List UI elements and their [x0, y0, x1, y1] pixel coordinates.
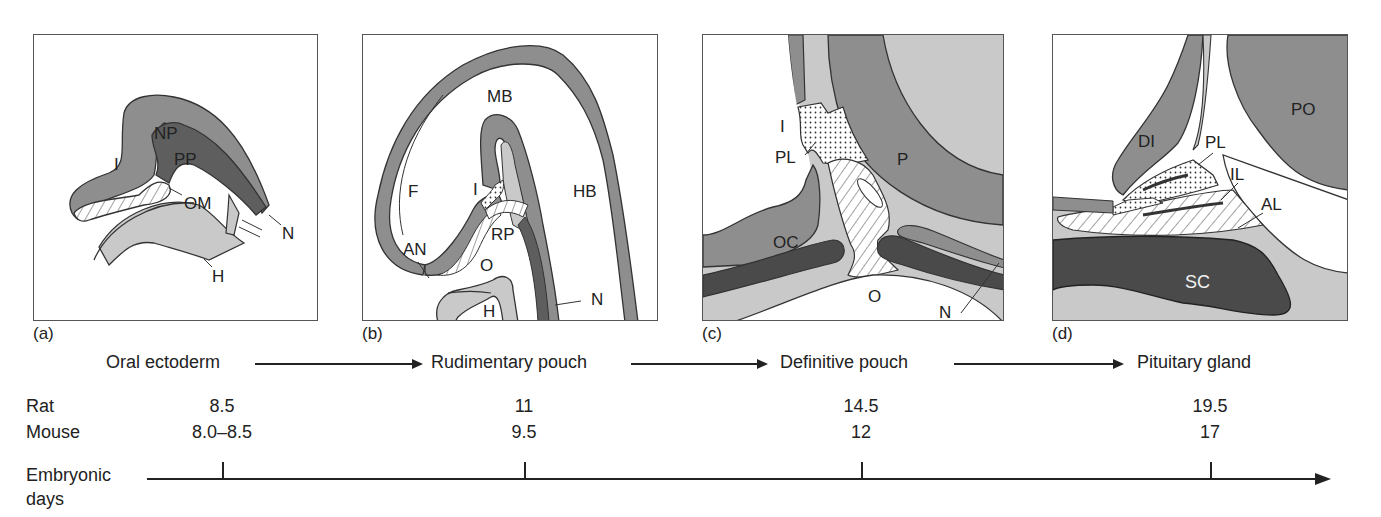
- stage-rudimentary-pouch: Rudimentary pouch: [431, 352, 587, 373]
- panel-a-caption: (a): [33, 324, 54, 344]
- label-i: I: [780, 117, 785, 136]
- label-sc: SC: [1185, 272, 1210, 292]
- label-mb: MB: [487, 87, 513, 106]
- axis-label-days: days: [26, 489, 64, 510]
- rat-day-3: 14.5: [811, 396, 911, 417]
- panel-b-caption: (b): [362, 324, 383, 344]
- label-po: PO: [1291, 100, 1316, 119]
- stage-arrow-3: [954, 363, 1122, 365]
- embryonic-days-axis: [147, 478, 1317, 480]
- rat-day-1: 8.5: [172, 396, 272, 417]
- panel-b-drawing: MB F I HB AN RP O H N: [363, 35, 658, 321]
- mouse-day-3: 12: [811, 422, 911, 443]
- panel-d: DI PL PO IL AL SC: [1052, 34, 1348, 321]
- label-h: H: [212, 267, 224, 286]
- label-n: N: [939, 303, 951, 321]
- panel-c: I PL P OC O N: [702, 34, 1004, 321]
- label-n: N: [282, 224, 294, 243]
- label-pl: PL: [775, 148, 796, 167]
- mouse-day-1: 8.0–8.5: [172, 422, 272, 443]
- panel-c-caption: (c): [702, 324, 722, 344]
- panel-a: NP PP I OM N H: [33, 34, 318, 321]
- label-f: F: [408, 182, 418, 201]
- panel-d-drawing: DI PL PO IL AL SC: [1053, 35, 1348, 321]
- label-o: O: [480, 256, 493, 275]
- label-rp: RP: [491, 225, 515, 244]
- label-oc: OC: [773, 233, 799, 252]
- stage-arrow-2: [631, 363, 766, 365]
- panel-c-drawing: I PL P OC O N: [703, 35, 1004, 321]
- mouse-day-2: 9.5: [474, 422, 574, 443]
- label-al: AL: [1261, 195, 1282, 214]
- label-p: P: [897, 150, 908, 169]
- axis-tick-4: [1210, 462, 1212, 478]
- label-n: N: [591, 290, 603, 309]
- axis-label-embryonic: Embryonic: [26, 465, 111, 486]
- label-om: OM: [184, 194, 211, 213]
- label-an: AN: [403, 240, 427, 259]
- label-il: IL: [1230, 165, 1244, 184]
- axis-tick-1: [222, 462, 224, 478]
- label-pl: PL: [1205, 133, 1226, 152]
- rat-day-4: 19.5: [1160, 396, 1260, 417]
- label-i: I: [114, 155, 119, 174]
- stage-definitive-pouch: Definitive pouch: [780, 352, 908, 373]
- axis-tick-3: [861, 462, 863, 478]
- label-o: O: [868, 287, 881, 306]
- axis-tick-2: [524, 462, 526, 478]
- panel-d-caption: (d): [1052, 324, 1073, 344]
- stage-arrow-1: [255, 363, 421, 365]
- row-label-mouse: Mouse: [26, 422, 80, 443]
- label-di: DI: [1138, 132, 1155, 151]
- panel-b: MB F I HB AN RP O H N: [362, 34, 658, 321]
- stage-oral-ectoderm: Oral ectoderm: [106, 352, 220, 373]
- panel-a-drawing: NP PP I OM N H: [34, 35, 318, 321]
- label-hb: HB: [573, 182, 597, 201]
- label-pp: PP: [174, 150, 197, 169]
- stage-pituitary-gland: Pituitary gland: [1137, 352, 1251, 373]
- label-h: H: [483, 302, 495, 321]
- label-i: I: [473, 180, 478, 199]
- mouse-day-4: 17: [1160, 422, 1260, 443]
- rat-day-2: 11: [474, 396, 574, 417]
- label-np: NP: [154, 124, 178, 143]
- row-label-rat: Rat: [26, 396, 54, 417]
